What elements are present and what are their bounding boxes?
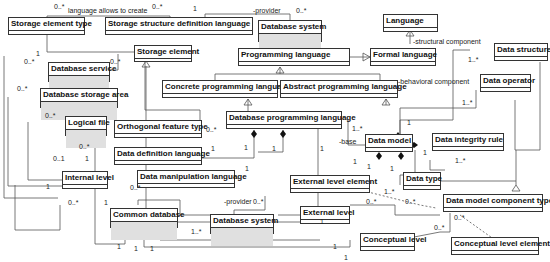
class-name: Common database: [111, 209, 177, 222]
class-name: Data type: [404, 173, 440, 186]
multiplicity: 0..*: [206, 126, 217, 134]
class-name: Data manipulation language: [138, 171, 234, 184]
role-behavioral-component: -behavioral component: [398, 78, 469, 86]
multiplicity: 1..*: [455, 157, 466, 165]
class-storage-element-type: Storage element type: [8, 17, 85, 35]
multiplicity: 1: [134, 245, 138, 253]
class-name: Storage structure definition language: [106, 18, 252, 31]
gen-arrow-component-type: [512, 185, 520, 191]
multiplicity: 1..*: [468, 56, 479, 64]
class-data-manipulation-language: Data manipulation language: [137, 170, 235, 188]
multiplicity: 1: [245, 165, 249, 173]
class-name: Formal language: [371, 49, 435, 62]
class-logical-file: Logical file: [65, 116, 107, 136]
class-name: Conceptual level: [361, 234, 414, 247]
assoc-integrity-datatype: [430, 160, 445, 170]
diamond-dm-bottom2: [398, 152, 404, 160]
multiplicity: 1: [320, 218, 324, 226]
class-external-level: External level: [300, 206, 350, 224]
class-name: Data structure: [495, 44, 547, 57]
multiplicity: 1: [211, 145, 215, 153]
multiplicity: 0..*: [54, 3, 65, 11]
multiplicity: 1: [367, 163, 371, 171]
class-name: Programming language: [239, 49, 349, 62]
assoc-logical-internal: [28, 122, 62, 180]
multiplicity: 0..*: [24, 58, 35, 66]
class-name: Database service: [49, 63, 109, 76]
assoc-storage-type-element: [47, 35, 134, 52]
class-common-database: Common database: [110, 208, 178, 228]
uml-class-diagram: Storage element type Storage structure d…: [0, 0, 550, 262]
class-name: Storage element type: [9, 18, 84, 31]
role-language-allows-to-create: language allows to create: [68, 7, 147, 15]
multiplicity: 1: [193, 5, 197, 13]
multiplicity: 0..*: [152, 3, 163, 11]
role-base: -base: [339, 138, 357, 146]
multiplicity: 1: [46, 183, 50, 191]
multiplicity: 0..*: [253, 198, 264, 206]
class-name: Data definition language: [115, 148, 201, 161]
multiplicity: 0..*: [110, 58, 121, 66]
multiplicity: 1: [104, 199, 108, 207]
class-name: Database system: [259, 21, 321, 34]
multiplicity: 1: [320, 145, 324, 153]
multiplicity: 1: [117, 243, 121, 251]
multiplicity: 0..*: [68, 199, 79, 207]
class-formal-language: Formal language: [370, 48, 436, 66]
class-database-system-bottom: Database system: [210, 214, 274, 234]
assoc-internal-left: [15, 185, 60, 230]
class-concrete-programming-language: Concrete programming language: [162, 80, 278, 98]
multiplicity: 1: [150, 245, 154, 253]
multiplicity: 0..*: [130, 184, 141, 192]
class-data-operator: Data operator: [480, 74, 531, 92]
multiplicity: 0..1: [53, 155, 65, 163]
class-internal-level: Internal level: [62, 171, 108, 189]
multiplicity: 1: [344, 254, 348, 262]
role-provider-top: -provider: [253, 7, 281, 15]
class-data-model: Data model: [365, 134, 413, 152]
class-name: Storage element: [135, 46, 191, 59]
class-database-system-top: Database system: [258, 20, 322, 42]
class-name: External level: [301, 207, 349, 220]
multiplicity: 1: [390, 165, 394, 173]
multiplicity: 1..*: [384, 188, 395, 196]
diamond-ddl: [280, 130, 286, 138]
class-database-service: Database service: [48, 62, 110, 82]
class-storage-element: Storage element: [134, 45, 192, 62]
multiplicity: 0..*: [405, 198, 416, 206]
multiplicity: 1..*: [191, 228, 202, 236]
multiplicity: 1..*: [462, 99, 473, 107]
class-conceptual-level-element: Conceptual level element: [451, 237, 539, 255]
diamond-dml: [251, 130, 257, 138]
class-name: Data model: [366, 135, 412, 148]
class-name: Conceptual level element: [452, 238, 538, 251]
multiplicity: 0..*: [454, 214, 465, 222]
class-name: Logical file: [66, 117, 106, 130]
diamond-dm-bottom1: [376, 152, 382, 160]
multiplicity: 1..*: [352, 125, 363, 133]
multiplicity: 0..*: [45, 112, 56, 120]
class-data-structure: Data structure: [494, 43, 548, 61]
class-name: Language: [384, 15, 437, 28]
class-name: Data model component type: [444, 195, 542, 208]
class-programming-language: Programming language: [238, 48, 350, 66]
class-abstract-programming-language: Abstract programming language: [280, 80, 398, 98]
class-orthogonal-feature-type: Orthogonal feature type: [114, 120, 202, 138]
class-name: External level element: [291, 176, 369, 189]
multiplicity: 1: [36, 50, 40, 58]
multiplicity: 1: [244, 144, 248, 152]
multiplicity: 1: [423, 149, 427, 157]
class-storage-structure-definition-language: Storage structure definition language: [105, 17, 253, 35]
class-name: Database storage area: [41, 89, 117, 102]
multiplicity: 1: [85, 155, 89, 163]
class-data-integrity-rule: Data integrity rule: [432, 133, 504, 151]
class-external-level-element: External level element: [290, 175, 370, 193]
class-data-type: Data type: [403, 172, 441, 190]
multiplicity: 0..*: [434, 224, 445, 232]
role-structural-component: -structural component: [413, 38, 481, 46]
class-data-definition-language: Data definition language: [114, 147, 202, 165]
class-name: Data integrity rule: [433, 134, 503, 147]
comp-ddl: [258, 130, 283, 152]
class-conceptual-level: Conceptual level: [360, 233, 415, 251]
class-name: Orthogonal feature type: [115, 121, 201, 134]
